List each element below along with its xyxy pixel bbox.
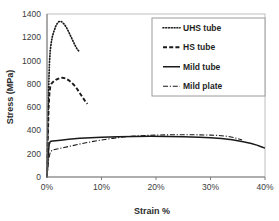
- x-axis-title: Strain %: [134, 206, 170, 216]
- stress-strain-chart: 0200400600800100012001400 0%10%20%30%40%…: [0, 0, 279, 221]
- y-tick-label: 200: [27, 149, 41, 159]
- legend-label: HS tube: [183, 42, 215, 52]
- y-tick-label: 0: [36, 172, 41, 182]
- legend-label: Mild tube: [183, 62, 221, 72]
- x-tick-label: 10%: [93, 182, 110, 192]
- y-tick-label: 800: [27, 79, 41, 89]
- y-tick-label: 1400: [22, 9, 41, 19]
- x-tick-label: 30%: [202, 182, 219, 192]
- legend-label: Mild plate: [183, 81, 222, 91]
- chart-canvas: 0200400600800100012001400 0%10%20%30%40%…: [0, 0, 279, 221]
- x-tick-label: 40%: [256, 182, 273, 192]
- y-tick-label: 1200: [22, 32, 41, 42]
- legend-label: UHS tube: [183, 23, 222, 33]
- chart-legend: UHS tubeHS tubeMild tubeMild plate: [152, 18, 265, 96]
- y-tick-label: 400: [27, 125, 41, 135]
- x-tick-label: 20%: [147, 182, 164, 192]
- y-tick-label: 600: [27, 102, 41, 112]
- y-tick-label: 1000: [22, 56, 41, 66]
- x-tick-label: 0%: [41, 182, 54, 192]
- y-axis-title: Stress (MPa): [5, 70, 15, 125]
